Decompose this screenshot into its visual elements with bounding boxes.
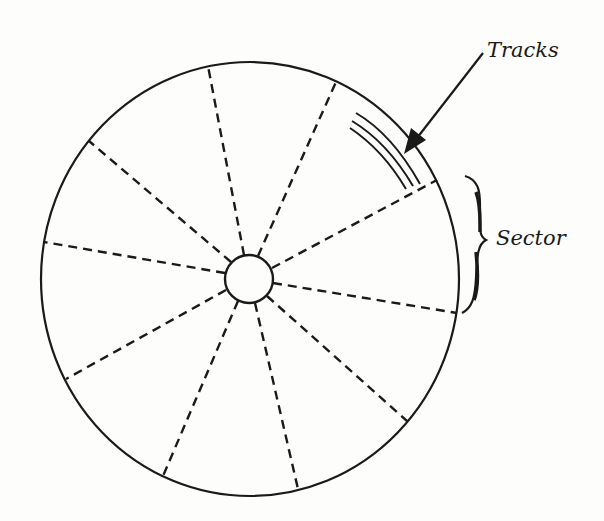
sector-divider <box>267 296 407 421</box>
track-arcs <box>350 113 420 189</box>
tracks-arrow-icon <box>404 53 483 154</box>
tracks-label: Tracks <box>487 40 559 61</box>
sector-divider <box>163 301 238 476</box>
sector-label: Sector <box>496 228 566 249</box>
sector-divider <box>89 141 231 262</box>
sector-brace-icon <box>462 176 486 313</box>
track-arc <box>350 128 406 189</box>
sector-divider <box>258 82 336 256</box>
disk-diagram <box>0 0 604 521</box>
sector-divider <box>273 283 457 313</box>
disk-hub <box>225 255 273 303</box>
sector-divider <box>208 66 244 255</box>
sector-divider <box>255 303 298 489</box>
sector-divider <box>44 242 225 273</box>
sector-divider <box>66 290 226 379</box>
sector-divider <box>272 180 437 268</box>
